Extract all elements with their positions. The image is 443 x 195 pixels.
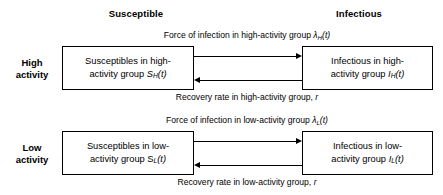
box-ih-suffix: (t) xyxy=(396,69,405,79)
arrow-infection-low-line xyxy=(194,141,297,142)
row-label-low-line1: Low xyxy=(4,142,60,154)
box-sl-line1: Susceptibles in low- xyxy=(87,141,169,151)
box-il-suffix: (t) xyxy=(395,154,404,164)
box-susceptibles-high-activity-text: Susceptibles in high- activity group SH(… xyxy=(85,55,171,81)
arrow-recovery-low-head-icon xyxy=(194,162,200,168)
box-sl-suffix: (t) xyxy=(157,154,166,164)
box-infectious-low-activity-text: Infectious in low- activity group IL(t) xyxy=(331,140,403,166)
recovery-rate-symbol-low: r xyxy=(314,177,317,187)
arrow-caption-force-of-infection-high: Force of infection in high-activity grou… xyxy=(97,30,397,40)
arrow-caption-recovery-rate-high-text: Recovery rate in high-activity group, xyxy=(176,92,315,102)
arrow-infection-high-line xyxy=(194,56,297,57)
box-sl-subscript: L xyxy=(154,157,158,164)
box-ih-line2-prefix: activity group xyxy=(331,69,388,79)
box-sh-subscript: H xyxy=(153,72,158,79)
row-label-low-activity: Low activity xyxy=(4,142,60,165)
box-sl-line2-prefix: activity group xyxy=(90,154,147,164)
box-il-line1: Infectious in low- xyxy=(333,141,402,151)
arrow-infection-high-head-icon xyxy=(296,53,302,59)
box-sh-line2-prefix: activity group xyxy=(89,69,146,79)
arrow-caption-recovery-rate-low-text: Recovery rate in low-activity group, xyxy=(178,177,314,187)
arrow-recovery-high-head-icon xyxy=(194,77,200,83)
lambda-suffix-high: (t) xyxy=(322,30,330,40)
box-il-line2-prefix: activity group xyxy=(331,154,388,164)
lambda-subscript-low: L xyxy=(316,119,319,126)
column-header-susceptible: Susceptible xyxy=(62,8,210,19)
box-sl-symbol: S xyxy=(147,154,153,164)
box-ih-subscript: H xyxy=(391,72,396,79)
box-susceptibles-low-activity: Susceptibles in low- activity group SL(t… xyxy=(62,131,194,175)
arrow-caption-force-of-infection-high-text: Force of infection in high-activity grou… xyxy=(164,30,314,40)
lambda-symbol-high: λ xyxy=(313,30,317,40)
box-susceptibles-low-activity-text: Susceptibles in low- activity group SL(t… xyxy=(87,140,169,166)
box-infectious-high-activity: Infectious in high- activity group IH(t) xyxy=(302,46,433,90)
box-il-subscript: L xyxy=(391,157,395,164)
lambda-subscript-high: H xyxy=(318,34,322,41)
box-ih-line1: Infectious in high- xyxy=(331,56,404,66)
arrow-caption-force-of-infection-low: Force of infection in low-activity group… xyxy=(97,115,397,125)
row-label-low-line2: activity xyxy=(4,154,60,166)
arrow-recovery-high-line xyxy=(200,80,302,81)
arrow-caption-force-of-infection-low-text: Force of infection in low-activity group xyxy=(166,115,312,125)
arrow-caption-recovery-rate-high: Recovery rate in high-activity group, r xyxy=(97,92,397,102)
row-label-high-activity: High activity xyxy=(4,57,60,80)
arrow-caption-recovery-rate-low: Recovery rate in low-activity group, r xyxy=(97,177,397,187)
arrow-infection-low-head-icon xyxy=(296,138,302,144)
box-sh-suffix: (t) xyxy=(158,69,167,79)
box-sh-line1: Susceptibles in high- xyxy=(85,56,171,66)
arrow-recovery-low-line xyxy=(200,165,302,166)
column-header-infectious: Infectious xyxy=(285,8,433,19)
box-infectious-high-activity-text: Infectious in high- activity group IH(t) xyxy=(331,55,405,81)
box-susceptibles-high-activity: Susceptibles in high- activity group SH(… xyxy=(62,46,194,90)
row-label-high-line2: activity xyxy=(4,69,60,81)
box-infectious-low-activity: Infectious in low- activity group IL(t) xyxy=(302,131,433,175)
compartment-model-diagram: Susceptible Infectious High activity Low… xyxy=(0,0,443,195)
row-label-high-line1: High xyxy=(4,57,60,69)
recovery-rate-symbol-high: r xyxy=(315,92,318,102)
lambda-suffix-low: (t) xyxy=(320,115,328,125)
